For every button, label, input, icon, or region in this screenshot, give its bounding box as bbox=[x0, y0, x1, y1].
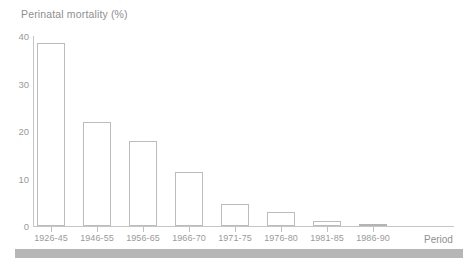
y-axis-tick-label: 20 bbox=[18, 126, 29, 137]
bar-1946-55 bbox=[83, 122, 111, 227]
bar-1956-65 bbox=[129, 141, 157, 227]
x-axis-tick bbox=[281, 227, 282, 232]
bar-1926-45 bbox=[37, 43, 65, 226]
y-axis-tick-label: 10 bbox=[18, 173, 29, 184]
x-axis-tick-label: 1976-80 bbox=[264, 233, 298, 243]
y-axis-tick-labels: 010203040 bbox=[0, 0, 29, 266]
x-axis-tick-label: 1971-75 bbox=[218, 233, 252, 243]
y-axis-tick-label: 40 bbox=[18, 31, 29, 42]
bar-1981-85 bbox=[313, 221, 341, 226]
x-axis-tick-label: 1981-85 bbox=[310, 233, 344, 243]
x-axis-tick bbox=[235, 227, 236, 232]
x-axis-tick-label: 1966-70 bbox=[172, 233, 206, 243]
x-axis-tick-label: 1926-45 bbox=[34, 233, 68, 243]
perinatal-mortality-bar-chart: Perinatal mortality (%) 010203040 1926-4… bbox=[0, 0, 476, 266]
bar-1966-70 bbox=[175, 172, 203, 226]
bar-1986-90 bbox=[359, 224, 387, 227]
y-axis-tick-label: 0 bbox=[24, 221, 29, 232]
x-axis-tick bbox=[143, 227, 144, 232]
x-axis-tick bbox=[327, 227, 328, 232]
x-axis-tick bbox=[189, 227, 190, 232]
x-axis-tick bbox=[51, 227, 52, 232]
plot-area bbox=[33, 36, 443, 226]
chart-title: Perinatal mortality (%) bbox=[21, 8, 128, 20]
x-axis-tick bbox=[373, 227, 374, 232]
y-axis-tick-label: 30 bbox=[18, 78, 29, 89]
x-axis-title: Period bbox=[424, 234, 453, 245]
bar-1976-80 bbox=[267, 212, 295, 226]
footer-band bbox=[15, 249, 463, 258]
x-axis-tick-label: 1986-90 bbox=[356, 233, 390, 243]
x-axis-tick bbox=[97, 227, 98, 232]
x-axis-tick-label: 1956-65 bbox=[126, 233, 160, 243]
x-axis-tick-label: 1946-55 bbox=[80, 233, 114, 243]
bar-1971-75 bbox=[221, 204, 249, 226]
